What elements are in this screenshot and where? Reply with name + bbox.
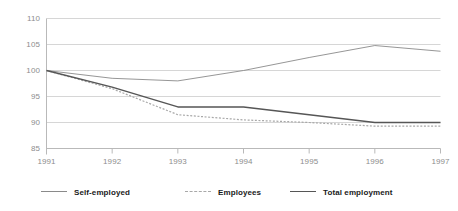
legend-line-swatch-icon — [41, 187, 67, 197]
legend-label: Total employment — [323, 188, 392, 197]
series-line-self-employed — [47, 46, 441, 81]
line-chart: 859095100105110 199119921993199419951996… — [0, 0, 458, 211]
y-tick-label: 105 — [18, 40, 40, 49]
chart-plot-area — [0, 0, 458, 211]
x-tick-label: 1994 — [224, 157, 264, 166]
x-tick-label: 1995 — [289, 157, 329, 166]
y-tick-label: 95 — [18, 92, 40, 101]
grid-lines — [47, 19, 441, 149]
x-tick-label: 1996 — [355, 157, 395, 166]
y-tick-label: 110 — [18, 14, 40, 23]
x-tick-label: 1993 — [158, 157, 198, 166]
x-axis-ticks — [47, 149, 441, 154]
chart-legend: Self-employedEmployeesTotal employment — [0, 182, 458, 204]
y-tick-label: 100 — [18, 66, 40, 75]
legend-item-total-employment[interactable]: Total employment — [290, 185, 392, 199]
y-tick-label: 90 — [18, 118, 40, 127]
x-tick-label: 1992 — [92, 157, 132, 166]
legend-line-swatch-icon — [290, 187, 316, 197]
legend-item-employees[interactable]: Employees — [185, 185, 261, 199]
x-tick-label: 1991 — [27, 157, 67, 166]
legend-label: Employees — [218, 188, 261, 197]
legend-item-self-employed[interactable]: Self-employed — [41, 185, 130, 199]
data-series-group — [47, 46, 441, 127]
series-line-employees — [47, 71, 441, 127]
y-tick-label: 85 — [18, 144, 40, 153]
legend-label: Self-employed — [74, 188, 130, 197]
legend-line-swatch-icon — [185, 187, 211, 197]
x-tick-label: 1997 — [421, 157, 458, 166]
